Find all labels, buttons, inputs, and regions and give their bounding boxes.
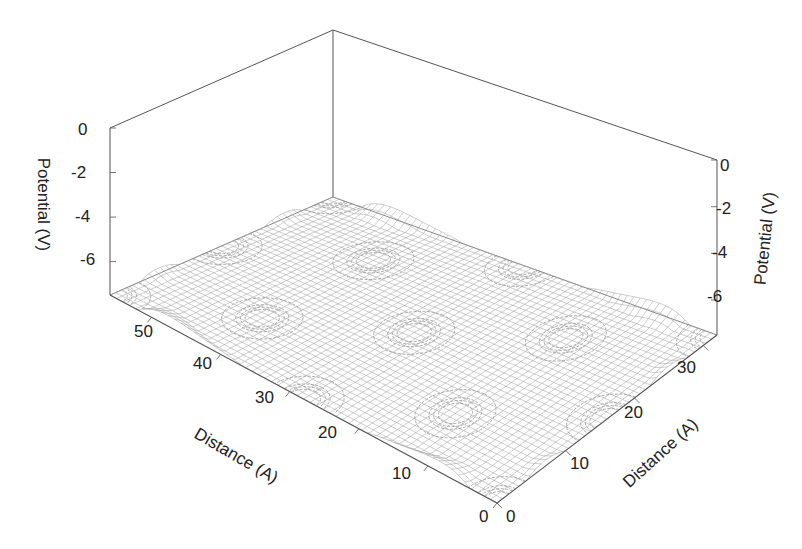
y-tick-30: 30 <box>255 389 274 406</box>
z-right-tick-2: -4 <box>712 244 727 261</box>
z-right-tick-1: -2 <box>716 200 731 217</box>
z-right-tick-0: 0 <box>720 157 729 174</box>
y-tick-40: 40 <box>193 355 212 372</box>
y-tick-20: 20 <box>318 424 337 441</box>
z-right-tick-3: -6 <box>707 288 722 305</box>
z-left-tick-3: -6 <box>80 251 95 268</box>
z-left-axis-title: Potential (V) <box>35 150 52 260</box>
box-back-edges <box>110 30 717 335</box>
y-tick-0: 0 <box>479 508 488 525</box>
y-tick-50: 50 <box>134 323 153 340</box>
z-left-tick-0: 0 <box>78 121 87 138</box>
y-tick-10: 10 <box>392 465 411 482</box>
x-tick-0: 0 <box>506 508 515 525</box>
z-left-tick-2: -4 <box>75 208 90 225</box>
surface-mesh <box>110 197 717 503</box>
x-tick-10: 10 <box>570 455 589 472</box>
z-left-tick-1: -2 <box>71 164 86 181</box>
x-tick-30: 30 <box>677 359 696 376</box>
x-tick-20: 20 <box>624 404 643 421</box>
